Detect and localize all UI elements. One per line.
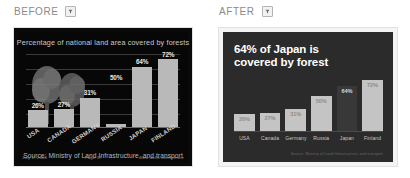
after-category-labels: USA Canada Germany Russia Japan Finland <box>234 132 383 144</box>
after-xlabel-japan: Japan <box>337 135 358 141</box>
after-xlabel-finland: Finland <box>362 135 383 141</box>
before-footer-page: Page 37 <box>85 155 102 160</box>
after-source-note: Source: Ministry of Land Infrastructure,… <box>291 152 383 156</box>
after-xlabel-usa: USA <box>234 135 255 141</box>
filter-dropdown-icon[interactable] <box>65 6 76 17</box>
before-bar-value-germany: 31% <box>84 89 96 96</box>
after-title-line-2: covered by forest <box>234 56 328 69</box>
before-bar-japan[interactable]: 64% <box>132 50 152 127</box>
after-slide[interactable]: 64% of Japan is covered by forest 26% 27… <box>218 27 398 167</box>
before-footer-date: July 1, 2008 <box>22 155 47 160</box>
before-bar-value-russia: 50% <box>110 74 122 81</box>
before-bar-finland[interactable]: 72% <box>158 50 178 127</box>
before-axis-line <box>26 127 180 128</box>
after-slide-canvas: 64% of Japan is covered by forest 26% 27… <box>223 32 393 162</box>
after-bar-japan[interactable]: 64% <box>337 74 358 132</box>
after-bar-finland[interactable]: 72% <box>362 74 383 132</box>
before-bar-value-usa: 26% <box>32 102 44 109</box>
before-chart-plot: 26% 27% 31% 50% <box>26 50 180 128</box>
before-label: BEFORE <box>14 6 58 17</box>
before-bar-group: 26% 27% 31% 50% <box>26 50 180 127</box>
after-bar-value-finland: 72% <box>367 82 378 88</box>
after-label: AFTER <box>219 6 255 17</box>
comparison-canvas: BEFORE Percentage of national land area … <box>0 0 410 178</box>
after-bar-value-russia: 50% <box>316 98 327 104</box>
after-chart-plot: 26% 27% 31% 50 <box>234 74 383 144</box>
before-panel-header: BEFORE <box>14 6 76 17</box>
after-bar-canada[interactable]: 27% <box>260 74 281 132</box>
before-bar-value-canada: 27% <box>58 101 70 108</box>
before-slide-footer: July 1, 2008 Page 37 New delhi conferenc… <box>22 155 184 160</box>
before-xlabel-finland: FINLAND <box>158 129 178 151</box>
before-slide-canvas: Percentage of national land area covered… <box>18 32 188 162</box>
after-xlabel-russia: Russia <box>311 135 332 141</box>
before-bar-russia[interactable]: 50% <box>106 50 126 127</box>
after-xlabel-canada: Canada <box>260 135 281 141</box>
after-bar-value-japan: 64% <box>341 88 352 94</box>
before-chart-title: Percentage of national land area covered… <box>17 38 189 47</box>
before-xlabel-usa: USA <box>28 129 48 151</box>
before-bar-usa[interactable]: 26% <box>28 50 48 127</box>
after-bar-germany[interactable]: 31% <box>285 74 306 132</box>
before-xlabel-germany: GERMANY <box>80 129 100 151</box>
after-bar-usa[interactable]: 26% <box>234 74 255 132</box>
after-bar-value-canada: 27% <box>265 115 276 121</box>
filter-dropdown-icon[interactable] <box>262 6 273 17</box>
after-bar-value-usa: 26% <box>239 116 250 122</box>
after-slide-title: 64% of Japan is covered by forest <box>234 43 328 69</box>
before-category-labels: USA CANADA GERMANY RUSSIA JAPAN FINLAND <box>26 129 180 151</box>
after-bar-group: 26% 27% 31% 50 <box>234 74 383 132</box>
before-xlabel-japan: JAPAN <box>132 129 152 151</box>
before-slide[interactable]: Percentage of national land area covered… <box>13 27 193 167</box>
after-panel-header: AFTER <box>219 6 273 17</box>
after-bar-russia[interactable]: 50% <box>311 74 332 132</box>
before-xlabel-russia: RUSSIA <box>106 129 126 151</box>
before-bar-canada[interactable]: 27% <box>54 50 74 127</box>
before-bar-value-finland: 72% <box>162 51 174 58</box>
after-title-line-1: 64% of Japan is <box>234 43 328 56</box>
after-xlabel-germany: Germany <box>285 135 306 141</box>
after-bar-value-germany: 31% <box>290 111 301 117</box>
before-bar-germany[interactable]: 31% <box>80 50 100 127</box>
before-bar-value-japan: 64% <box>136 58 148 65</box>
before-footer-event: New delhi conference <box>140 155 184 160</box>
